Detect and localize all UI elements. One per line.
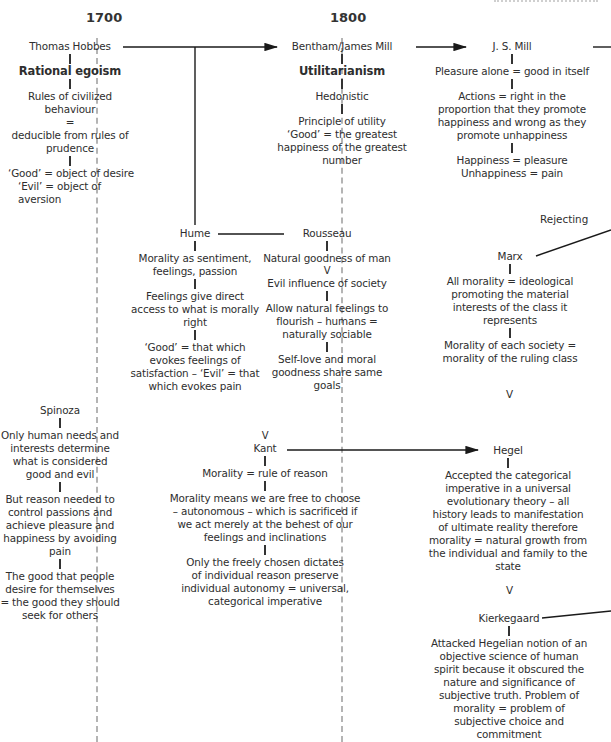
connector-tick [511,79,513,89]
node-js-mill: J. S. Mill Pleasure alone = good in itse… [432,40,592,180]
philosopher-name: Kierkegaard [426,612,592,625]
philosopher-name: Rousseau [262,227,392,240]
point-text: Natural goodness of man [256,252,398,265]
philosopher-name: Hume [130,227,260,240]
connector-tick [69,79,71,89]
philosopher-name: J. S. Mill [432,40,592,53]
point-text: Attacked Hegelian notion of an objective… [426,637,592,741]
philosopher-name: Hegel [428,444,588,457]
connector-tick [326,241,328,251]
philosopher-name: Spinoza [0,404,120,417]
node-bentham-james-mill: Bentham/James Mill Utilitarianism Hedoni… [262,40,422,167]
connector-tick [69,54,71,64]
definition-good: ‘Good’ = object of desire [0,167,140,180]
philosopher-name: Marx [430,250,590,263]
chevron-down-icon: V [506,388,513,400]
chevron-down-icon: V [262,265,392,277]
connector-tick [509,264,511,274]
connector-tick [59,482,61,492]
connector-tick [69,156,71,166]
point-text: The good that people desire for themselv… [0,570,120,622]
connector-tick [326,291,328,301]
connector-tick [59,559,61,569]
equals-sign: = [0,116,140,129]
chevron-down-icon: V [506,584,513,596]
connector-tick [511,143,513,153]
connector-tick [508,626,510,636]
point-text: Only human needs and interests determine… [0,429,120,481]
point-text: But reason needed to control passions an… [0,493,120,558]
school-heading: Rational egoism [0,65,140,78]
node-hobbes: Thomas Hobbes Rational egoism Rules of c… [0,40,140,206]
point-text: All morality = ideological promoting the… [430,275,590,327]
point-text: Allow natural feelings to flourish – hum… [262,302,392,341]
philosopher-name: Thomas Hobbes [0,40,140,53]
connector-tick [194,279,196,289]
connector-tick [59,418,61,428]
chevron-down-icon: V [160,430,370,442]
connector-tick [264,481,266,491]
point-text: Evil influence of society [262,277,392,290]
point-text: Accepted the categorical imperative in a… [428,469,588,573]
connector-tick [341,104,343,114]
point-text: Hedonistic [262,90,422,103]
point-text: deducible from rules of prudence [0,129,140,155]
connector-tick [264,456,266,466]
philosopher-name: Bentham/James Mill [262,40,422,53]
point-text: Feelings give direct access to what is m… [130,290,260,329]
school-heading: Utilitarianism [262,65,422,78]
definition-evil: ‘Evil’ = object of aversion [0,180,140,206]
point-text: Happiness = pleasure [432,154,592,167]
point-text: Unhappiness = pain [432,167,592,180]
relation-label-rejecting: Rejecting [540,213,588,225]
point-text: ‘Good’ = that which evokes feelings of s… [130,341,260,393]
node-kierkegaard: Kierkegaard Attacked Hegelian notion of … [426,612,592,741]
node-spinoza: Spinoza Only human needs and interests d… [0,404,120,622]
point-text: Principle of utility [262,115,422,128]
connector-tick [341,54,343,64]
point-text: Pleasure alone = good in itself [432,65,592,78]
node-kant: V Kant Morality = rule of reason Moralit… [160,430,370,608]
point-text: Actions = right in the proportion that t… [432,90,592,142]
connector-tick [194,241,196,251]
connector-tick [511,54,513,64]
point-text: ‘Good’ = the greatest happiness of the g… [262,128,422,167]
connector-tick [507,458,509,468]
connector-tick [341,79,343,89]
point-text: Rules of civilized behaviour [0,90,140,116]
philosopher-name: Kant [160,442,370,455]
point-text: Morality means we are free to choose – a… [160,492,370,544]
connector-tick [194,330,196,340]
node-marx: Marx All morality = ideological promotin… [430,250,590,365]
node-hegel: Hegel Accepted the categorical imperativ… [428,444,588,573]
connector-tick [509,328,511,338]
point-text: Only the freely chosen dictates of indiv… [160,556,370,608]
node-rousseau: Rousseau Natural goodness of man V Evil … [262,227,392,392]
connector-tick [264,545,266,555]
point-text: Self-love and moral goodness share same … [262,353,392,392]
node-hume: Hume Morality as sentiment, feelings, pa… [130,227,260,393]
point-text: Morality = rule of reason [160,467,370,480]
point-text: Morality as sentiment, feelings, passion [130,252,260,278]
point-text: Morality of each society = morality of t… [430,339,590,365]
connector-tick [326,342,328,352]
